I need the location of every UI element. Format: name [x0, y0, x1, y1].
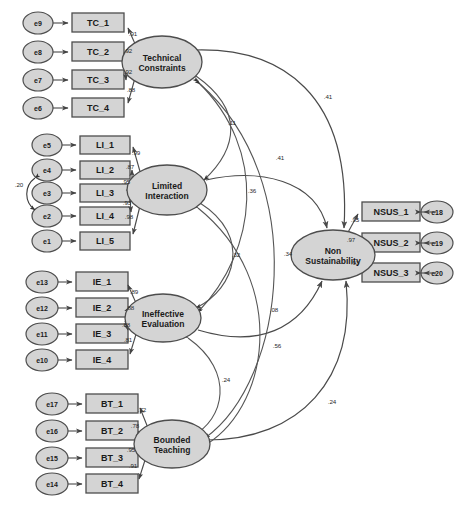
- error-term-e10: e10: [26, 349, 58, 371]
- indicator-label: TC_4: [87, 103, 109, 113]
- latent-NSUS: NonSustainability: [291, 230, 375, 280]
- error-label: e4: [43, 167, 51, 174]
- indicator-label: BT_3: [101, 453, 123, 463]
- loading-coefficient: .95: [351, 216, 360, 223]
- covariance-coefficient: .32: [232, 251, 241, 258]
- latent-LI: LimitedInteraction: [127, 165, 207, 215]
- error-term-e17: e17: [36, 393, 68, 415]
- latent-BT: BoundedTeaching: [134, 420, 210, 468]
- error-term-e15: e15: [36, 447, 68, 469]
- error-label: e13: [36, 279, 48, 286]
- latent-label-line1: Bounded: [154, 435, 191, 445]
- cov-tc-bt: [200, 84, 274, 438]
- path-li-to-nsus: [206, 176, 327, 228]
- loading-coefficient: .95: [127, 446, 136, 453]
- indicator-BT_1: BT_1: [86, 394, 138, 413]
- indicator-label: IE_3: [93, 329, 112, 339]
- error-label: e8: [34, 49, 42, 56]
- indicator-label: TC_2: [87, 47, 109, 57]
- indicator-label: NSUS_1: [373, 207, 408, 217]
- error-label: e5: [43, 142, 51, 149]
- structural-coefficient: .41: [324, 93, 333, 100]
- latent-label-line1: Non: [325, 246, 342, 256]
- indicator-TC_3: TC_3: [72, 70, 124, 89]
- cov-tc-li: [196, 76, 231, 180]
- error-arrows-group: [53, 23, 436, 484]
- indicator-LI_2: LI_2: [80, 161, 130, 179]
- error-term-e4: e4: [32, 159, 62, 181]
- error-label: e3: [43, 190, 51, 197]
- cov-ie-bt: [188, 338, 220, 436]
- error-label: e9: [34, 20, 42, 27]
- loading-coefficient: .91: [129, 462, 138, 469]
- loading-coefficient: .95: [122, 178, 131, 185]
- latent-ellipses-group: TechnicalConstraintsLimitedInteractionIn…: [122, 36, 375, 468]
- indicator-label: BT_1: [101, 399, 123, 409]
- indicator-BT_4: BT_4: [86, 474, 138, 493]
- covariance-coefficient: .34: [284, 250, 293, 257]
- structural-coefficient: .24: [328, 398, 337, 405]
- indicator-IE_1: IE_1: [76, 272, 128, 291]
- loading-coefficient: .93: [351, 259, 360, 266]
- error-term-e13: e13: [26, 271, 58, 293]
- indicator-label: LI_2: [96, 165, 114, 175]
- error-label: e15: [46, 455, 58, 462]
- loading-coefficient: .89: [130, 288, 139, 295]
- loading-coefficient: .78: [131, 422, 140, 429]
- loading-coefficient: .87: [126, 163, 135, 170]
- indicator-TC_2: TC_2: [72, 42, 124, 61]
- indicator-label: LI_5: [96, 236, 114, 246]
- structural-coefficient: .41: [276, 154, 285, 161]
- error-term-e7: e7: [23, 69, 53, 91]
- error-label: e17: [46, 401, 58, 408]
- loading-coefficient: .92: [124, 47, 133, 54]
- indicator-label: BT_2: [101, 426, 123, 436]
- error-term-e16: e16: [36, 420, 68, 442]
- error-term-e5: e5: [32, 134, 62, 156]
- indicator-label: TC_3: [87, 75, 109, 85]
- latent-IE: IneffectiveEvaluation: [125, 294, 201, 342]
- indicator-LI_4: LI_4: [80, 207, 130, 225]
- loading-coefficient: .91: [129, 30, 138, 37]
- latent-label-line2: Evaluation: [142, 319, 185, 329]
- latent-label-line1: Ineffective: [142, 309, 184, 319]
- error-term-e9: e9: [23, 12, 53, 34]
- loading-coefficient: .81: [124, 336, 133, 343]
- indicator-TC_1: TC_1: [72, 13, 124, 32]
- latent-label-line2: Interaction: [145, 191, 188, 201]
- latent-covariances-group: [188, 76, 274, 448]
- latent-label-line1: Limited: [152, 181, 182, 191]
- indicator-IE_2: IE_2: [76, 298, 128, 317]
- error-term-e3: e3: [32, 182, 62, 204]
- latent-TC: TechnicalConstraints: [122, 36, 202, 88]
- loading-coefficient: .72: [138, 406, 147, 413]
- error-label: e2: [43, 213, 51, 220]
- indicator-label: IE_1: [93, 277, 112, 287]
- covariance-coefficient: .24: [222, 376, 231, 383]
- loading-coefficient: .88: [122, 321, 131, 328]
- indicator-label: BT_4: [101, 479, 123, 489]
- indicator-LI_5: LI_5: [80, 232, 130, 250]
- indicator-TC_4: TC_4: [72, 98, 124, 117]
- error-label: e11: [36, 331, 47, 338]
- error-label: e14: [46, 481, 58, 488]
- indicator-label: NSUS_3: [373, 268, 408, 278]
- error-term-e1: e1: [32, 230, 62, 252]
- loading-coefficient: .97: [347, 236, 356, 243]
- loading-coefficient: .88: [127, 86, 136, 93]
- indicator-LI_1: LI_1: [80, 136, 130, 154]
- covariance-coefficient: .20: [15, 181, 24, 188]
- path-bt-to-nsus: [206, 281, 347, 440]
- indicator-label: LI_3: [96, 188, 114, 198]
- latent-label-line1: Technical: [143, 53, 182, 63]
- error-term-e12: e12: [26, 297, 58, 319]
- loading-coefficient: .98: [125, 213, 134, 220]
- error-term-e14: e14: [36, 473, 68, 495]
- error-term-e6: e6: [23, 97, 53, 119]
- loading-coefficient: .92: [124, 68, 133, 75]
- error-term-e8: e8: [23, 41, 53, 63]
- loading-coefficient: .99: [132, 149, 141, 156]
- indicator-IE_3: IE_3: [76, 324, 128, 343]
- diagram-canvas: e9e8e7e6e5e4e3e2e1e13e12e11e10e17e16e15e…: [0, 0, 465, 511]
- structural-coefficient: .08: [270, 306, 279, 313]
